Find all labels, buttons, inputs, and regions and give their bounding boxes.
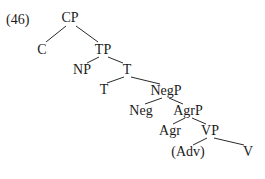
node-v: V [243,145,253,159]
node-tbar: T [123,63,132,77]
node-adv: (Adv) [171,145,204,159]
node-agr: Agr [159,124,181,138]
edge-tbar-t [107,77,124,83]
edge-tp-tbar [108,57,123,63]
tree-edges [0,0,265,179]
edge-cp-c [46,26,66,42]
node-vp: VP [201,124,219,138]
node-np: NP [73,63,91,77]
edge-vp-v [214,138,244,145]
edge-cp-tp [76,26,98,42]
node-agrp: AgrP [173,104,203,118]
node-tp: TP [95,43,111,57]
node-cp: CP [61,11,78,25]
node-t: T [100,83,109,97]
node-negp: NegP [150,84,181,98]
node-neg: Neg [129,104,152,118]
node-c: C [37,43,46,57]
